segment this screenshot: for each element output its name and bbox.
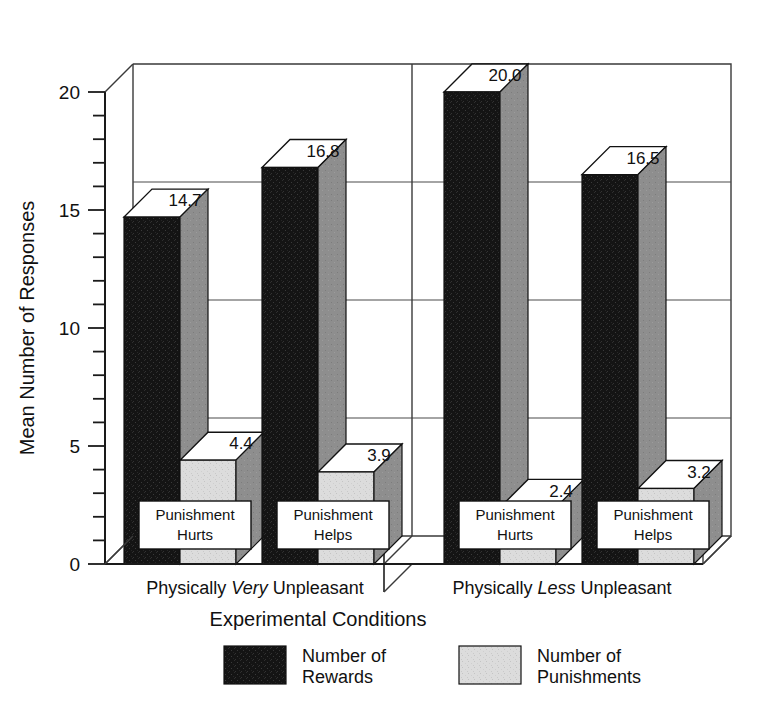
group-label-1-post: Unpleasant — [268, 578, 364, 598]
bar-box-label-g1-c1: Punishment Hurts — [139, 501, 251, 549]
box-label-line1: Punishment — [475, 506, 555, 523]
y-tick-label-10: 10 — [59, 318, 80, 339]
y-tick-label-20: 20 — [59, 82, 80, 103]
box-label-line2: Hurts — [497, 526, 533, 543]
box-label-line1: Punishment — [293, 506, 373, 523]
bar-box-label-g2-c2: Punishment Helps — [597, 501, 709, 549]
x-axis-title: Experimental Conditions — [210, 608, 427, 630]
group-label-2-em: Less — [537, 578, 575, 598]
y-tick-label-5: 5 — [69, 436, 80, 457]
box-label-line1: Punishment — [155, 506, 235, 523]
legend-label-punishments-line1: Number of — [537, 646, 622, 666]
y-tick-label-0: 0 — [69, 554, 80, 575]
chart-figure: 0 5 10 15 20 Mean Number of Responses 14… — [0, 0, 769, 714]
group-label-2: Physically Less Unpleasant — [452, 578, 671, 598]
group-label-2-pre: Physically — [452, 578, 537, 598]
legend-label-rewards-line1: Number of — [302, 646, 387, 666]
bar-chart-3d: 0 5 10 15 20 Mean Number of Responses 14… — [0, 0, 769, 714]
bar-box-label-g2-c1: Punishment Hurts — [459, 501, 571, 549]
y-axis-title: Mean Number of Responses — [16, 201, 38, 456]
group-label-1: Physically Very Unpleasant — [146, 578, 363, 598]
light-swatch — [459, 646, 521, 684]
dark-swatch — [224, 646, 286, 684]
legend-item-punishments[interactable]: Number of Punishments — [459, 646, 641, 687]
bar-g2-c1-rewards: 20.0 — [444, 64, 528, 564]
group-label-1-em: Very — [231, 578, 268, 598]
bar-value-label: 3.9 — [367, 446, 391, 465]
y-tick-label-15: 15 — [59, 200, 80, 221]
bar-value-label: 20.0 — [488, 66, 521, 85]
bar-value-label: 4.4 — [229, 434, 253, 453]
box-label-line2: Helps — [314, 526, 352, 543]
bar-box-label-g1-c2: Punishment Helps — [277, 501, 389, 549]
legend-item-rewards[interactable]: Number of Rewards — [224, 646, 387, 687]
group-label-1-pre: Physically — [146, 578, 231, 598]
box-label-line2: Hurts — [177, 526, 213, 543]
group-label-2-post: Unpleasant — [575, 578, 671, 598]
legend-label-rewards-line2: Rewards — [302, 667, 373, 687]
bar-value-label: 2.4 — [549, 482, 573, 501]
bar-value-label: 3.2 — [687, 463, 711, 482]
legend-label-punishments-line2: Punishments — [537, 667, 641, 687]
bar-value-label: 16.5 — [626, 149, 659, 168]
bar-value-label: 16.8 — [306, 142, 339, 161]
bar-value-label: 14.7 — [168, 191, 201, 210]
box-label-line1: Punishment — [613, 506, 693, 523]
box-label-line2: Helps — [634, 526, 672, 543]
